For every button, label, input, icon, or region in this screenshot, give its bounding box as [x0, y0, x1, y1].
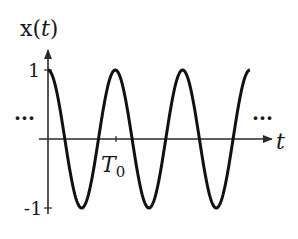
ellipsis-right: ···	[252, 106, 273, 130]
x-axis-label: t	[276, 129, 285, 154]
y-tick-label-1: 1	[28, 59, 40, 81]
ellipsis-left: ···	[14, 106, 35, 130]
chart: x(t) 1 -1 T0 t ··· ···	[0, 0, 298, 239]
y-tick-label-minus1: -1	[24, 197, 43, 219]
y-axis-label: x(t)	[20, 16, 58, 41]
x-tick-label-T0: T0	[101, 152, 125, 181]
